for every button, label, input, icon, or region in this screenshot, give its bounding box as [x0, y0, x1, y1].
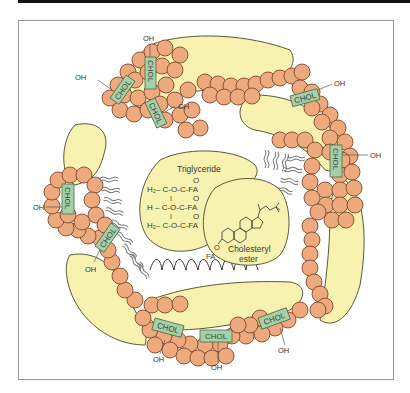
triglyceride-title: Triglyceride [177, 164, 221, 174]
cholesteryl-ester-title: Cholesteryl [228, 244, 271, 254]
svg-text:O: O [193, 194, 199, 203]
svg-text:OH: OH [33, 203, 44, 212]
svg-text:O: O [193, 176, 199, 185]
svg-text:OH: OH [178, 102, 189, 111]
svg-text:OH: OH [278, 346, 289, 355]
svg-text:CHOL: CHOL [63, 187, 72, 210]
triglyceride-line-3: H₂– C-O-C-FA [147, 221, 199, 230]
svg-text:ester: ester [239, 254, 258, 264]
oh-label: OH [143, 34, 154, 43]
svg-text:I: I [170, 195, 172, 202]
svg-text:OH: OH [75, 73, 86, 82]
svg-text:O: O [193, 212, 199, 221]
svg-text:CHOL: CHOL [205, 332, 228, 341]
cholesterol-1: CHOL OH [143, 34, 156, 89]
svg-text:OH: OH [370, 151, 381, 160]
svg-text:OH: OH [85, 265, 96, 274]
triglyceride-line-1: H₂– C-O-C-FA [147, 185, 199, 194]
triglyceride-line-2: H – C-O-C-FA [147, 203, 198, 212]
svg-text:CHOL: CHOL [331, 148, 340, 171]
svg-text:OH: OH [334, 79, 345, 88]
core-cholesteryl-ester: O FA Cholesteryl ester [203, 178, 289, 265]
fa-label: FA [206, 252, 215, 261]
lipoprotein-diagram: Triglyceride O H₂– C-O-C-FA I O H – C-O-… [0, 0, 410, 393]
svg-text:I: I [170, 213, 172, 220]
svg-text:OH: OH [153, 355, 164, 364]
svg-text:OH: OH [211, 363, 222, 372]
svg-text:CHOL: CHOL [146, 60, 155, 83]
svg-text:O: O [214, 243, 220, 252]
